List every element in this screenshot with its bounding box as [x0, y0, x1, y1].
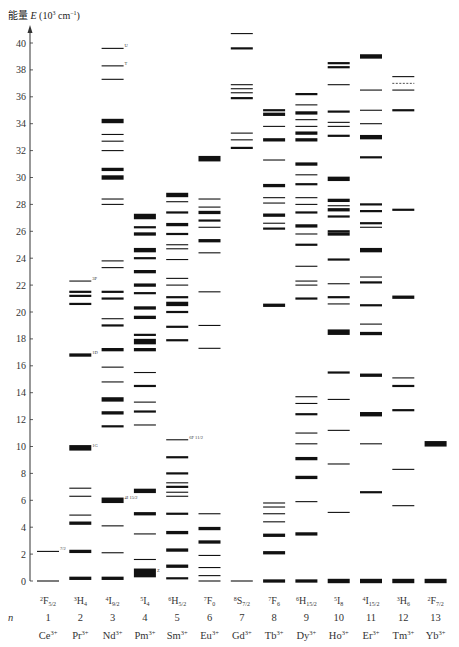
energy-level	[102, 119, 124, 123]
n-value: 6	[207, 612, 212, 623]
energy-level	[134, 533, 156, 534]
y-tick-label: 20	[16, 307, 26, 318]
energy-level	[102, 168, 124, 171]
energy-level	[134, 257, 156, 259]
energy-level	[263, 521, 285, 522]
energy-level	[360, 276, 382, 277]
energy-level	[392, 90, 414, 91]
energy-level	[134, 559, 156, 560]
energy-level	[166, 223, 188, 226]
energy-level	[134, 339, 156, 345]
y-tick-label: 18	[16, 333, 26, 344]
energy-level	[360, 110, 382, 111]
n-value: 12	[398, 612, 409, 623]
level-term-label: U	[125, 43, 129, 48]
energy-level	[295, 138, 317, 141]
energy-level	[102, 260, 124, 261]
energy-level	[166, 565, 188, 568]
n-value: 2	[78, 612, 83, 623]
energy-level-chart: 0246810121416182022242628303234363840能量 …	[0, 0, 459, 647]
y-tick-label: 32	[16, 145, 26, 156]
energy-level	[166, 513, 188, 515]
energy-level	[360, 210, 382, 212]
energy-level	[166, 577, 188, 579]
ground-state-term: 4I9/2	[106, 595, 120, 607]
energy-level	[231, 97, 253, 99]
energy-level	[102, 525, 124, 526]
y-axis-title: 能量 E (103 cm−1)	[8, 9, 80, 22]
y-tick-label: 38	[16, 64, 26, 75]
n-value: 1	[45, 612, 50, 623]
energy-level	[166, 492, 188, 493]
energy-level	[69, 445, 91, 451]
energy-level	[328, 208, 350, 211]
energy-level	[295, 443, 317, 444]
energy-level	[166, 201, 188, 202]
energy-level	[166, 259, 188, 260]
y-tick-label: 26	[16, 226, 26, 237]
energy-level	[69, 295, 91, 297]
level-term-label: 1G	[92, 443, 98, 448]
energy-level	[166, 193, 188, 197]
energy-level	[360, 227, 382, 228]
energy-level	[134, 306, 156, 309]
energy-level	[102, 397, 124, 401]
energy-level	[102, 141, 124, 142]
energy-level	[295, 244, 317, 246]
y-tick-label: 30	[16, 172, 26, 183]
energy-level	[328, 303, 350, 304]
energy-level	[328, 126, 350, 127]
y-tick-label: 12	[16, 414, 26, 425]
y-tick-label: 2	[21, 549, 26, 560]
energy-level	[199, 540, 221, 543]
energy-level	[102, 425, 124, 427]
energy-level	[166, 248, 188, 249]
energy-level	[328, 283, 350, 284]
energy-level	[199, 198, 221, 199]
energy-level	[360, 332, 382, 335]
n-value: 4	[142, 612, 148, 623]
energy-level	[295, 579, 317, 582]
ground-state-term: 5I8	[334, 595, 343, 607]
energy-level	[231, 88, 253, 89]
energy-level	[134, 292, 156, 294]
y-tick-label: 10	[16, 441, 26, 452]
energy-level	[199, 207, 221, 208]
energy-level	[392, 579, 414, 583]
energy-level	[328, 122, 350, 123]
energy-level	[295, 501, 317, 502]
energy-level	[295, 111, 317, 114]
level-term-label: Z	[157, 568, 160, 573]
energy-level	[199, 219, 221, 221]
energy-level	[360, 123, 382, 124]
ion-label: Ce3+	[39, 629, 58, 641]
energy-level	[166, 296, 188, 298]
energy-level	[263, 223, 285, 224]
energy-level	[134, 489, 156, 493]
energy-level	[263, 513, 285, 514]
ground-state-term: 4I15/2	[362, 595, 379, 607]
ion-label: Pr3+	[72, 629, 89, 641]
ground-state-term: 2F5/2	[40, 595, 56, 607]
energy-level	[166, 278, 188, 279]
energy-level	[134, 410, 156, 412]
ground-state-term: 3H4	[74, 595, 87, 607]
energy-level	[231, 47, 253, 49]
energy-level	[328, 329, 350, 335]
y-tick-label: 4	[21, 522, 26, 533]
energy-level	[328, 296, 350, 298]
energy-level	[166, 482, 188, 483]
energy-level	[166, 233, 188, 235]
energy-level	[134, 569, 156, 578]
energy-level	[263, 159, 285, 160]
energy-level	[102, 318, 124, 319]
energy-level	[295, 396, 317, 397]
energy-level	[199, 580, 221, 581]
energy-level	[295, 297, 317, 299]
n-value: 11	[366, 612, 376, 623]
energy-level	[166, 211, 188, 213]
energy-level	[263, 138, 285, 141]
energy-level	[360, 222, 382, 224]
energy-level	[263, 214, 285, 217]
energy-level	[328, 371, 350, 373]
